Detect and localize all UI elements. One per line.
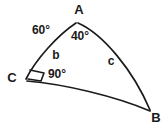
angle-label-90: 90°: [48, 67, 66, 81]
angle-label-40: 40°: [71, 29, 89, 43]
side-label-b: b: [52, 48, 59, 62]
vertex-label-c: C: [7, 70, 17, 85]
angle-label-60: 60°: [32, 23, 50, 37]
vertex-label-a: A: [74, 2, 84, 17]
vertex-label-b: B: [151, 110, 160, 125]
side-label-c: c: [108, 54, 115, 68]
spherical-triangle-diagram: A B C 60° 40° 90° b c: [0, 0, 166, 128]
side-a-path: [27, 81, 150, 111]
triangle-figure-svg: A B C 60° 40° 90° b c: [0, 0, 166, 128]
